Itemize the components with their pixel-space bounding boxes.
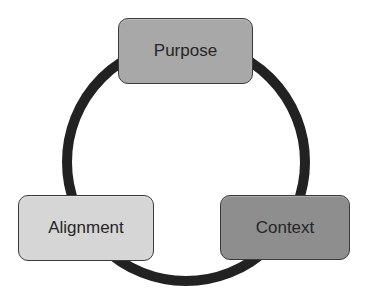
node-alignment-label: Alignment (48, 218, 124, 238)
node-purpose: Purpose (118, 18, 253, 84)
node-purpose-label: Purpose (154, 41, 217, 61)
node-alignment: Alignment (18, 195, 154, 261)
node-context-label: Context (256, 218, 315, 238)
node-context: Context (220, 195, 350, 260)
